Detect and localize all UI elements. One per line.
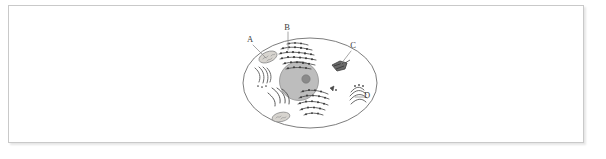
figure-frame (8, 5, 584, 143)
page-root: A B C D (0, 0, 606, 159)
